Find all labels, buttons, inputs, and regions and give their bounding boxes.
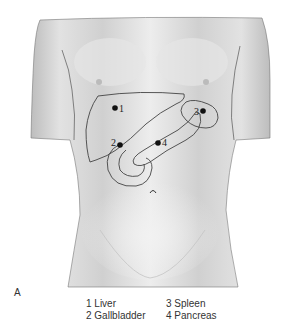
torso-diagram: 1 2 3 4	[0, 0, 283, 334]
legend-item-spleen: 3 Spleen	[166, 298, 217, 310]
legend-item-gallbladder: 2 Gallbladder	[86, 310, 145, 322]
nipple-left	[96, 79, 102, 85]
nipple-right	[203, 79, 209, 85]
svg-text:1: 1	[119, 103, 124, 114]
legend-column-2: 3 Spleen 4 Pancreas	[166, 298, 217, 322]
svg-text:2: 2	[111, 137, 116, 148]
svg-text:4: 4	[162, 137, 167, 148]
panel-label: A	[14, 287, 21, 298]
legend-column-1: 1 Liver 2 Gallbladder	[86, 298, 145, 322]
legend-item-pancreas: 4 Pancreas	[166, 310, 217, 322]
legend-item-liver: 1 Liver	[86, 298, 145, 310]
svg-text:3: 3	[194, 106, 199, 117]
